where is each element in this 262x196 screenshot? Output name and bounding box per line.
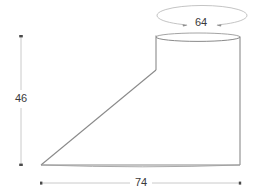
top-ellipse-front-arc — [156, 37, 240, 41]
technical-drawing-canvas: 64 46 74 — [0, 0, 262, 196]
width-dimension-label: 74 — [135, 176, 147, 188]
height-dimension-tick-bottom-icon — [19, 164, 23, 166]
top-ellipse-back-arc — [156, 33, 240, 37]
drawing-svg: 64 46 74 — [0, 0, 262, 196]
height-dimension-tick-top-icon — [19, 35, 23, 37]
diameter-dimension-label: 64 — [195, 16, 207, 28]
solid-outline-group — [41, 33, 240, 167]
height-dimension-group: 46 — [15, 35, 27, 166]
width-dimension-tick-left-icon — [40, 182, 42, 185]
width-dimension-tick-right-icon — [239, 182, 241, 185]
height-dimension-label: 46 — [15, 92, 27, 104]
diameter-dimension-group: 64 — [157, 5, 247, 27]
width-dimension-group: 74 — [40, 176, 241, 188]
slant-edge — [41, 70, 156, 165]
